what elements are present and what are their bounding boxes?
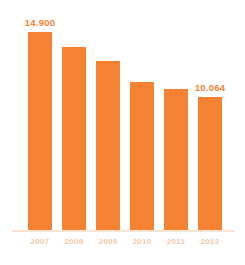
bar-group-2011: [164, 89, 188, 231]
x-axis-tick-labels: 2007 2008 2009 2010 2011 2012: [0, 237, 245, 253]
plot-area: 14.900 10.064: [0, 0, 245, 231]
bar-2007[interactable]: [28, 32, 52, 231]
bar-group-2010: [130, 82, 154, 231]
bar-2012[interactable]: [198, 97, 222, 231]
bar-chart: 14.900 10.064 2007 2008 2009 2010 2011 2…: [0, 0, 245, 265]
bar-2008[interactable]: [62, 47, 86, 231]
x-tick-label-2009: 2009: [96, 237, 120, 246]
bar-group-2008: [62, 47, 86, 231]
x-tick-label-2010: 2010: [130, 237, 154, 246]
x-tick-label-2008: 2008: [62, 237, 86, 246]
bar-group-2012: 10.064: [198, 97, 222, 231]
bar-2011[interactable]: [164, 89, 188, 231]
bar-2010[interactable]: [130, 82, 154, 231]
x-axis-line: [12, 230, 235, 232]
bar-group-2009: [96, 61, 120, 231]
x-tick-label-2011: 2011: [164, 237, 188, 246]
bar-group-2007: 14.900: [28, 32, 52, 231]
bar-value-label-2012: 10.064: [195, 82, 225, 93]
x-tick-label-2012: 2012: [198, 237, 222, 246]
x-tick-label-2007: 2007: [28, 237, 52, 246]
bar-value-label-2007: 14.900: [25, 17, 55, 28]
bar-2009[interactable]: [96, 61, 120, 231]
